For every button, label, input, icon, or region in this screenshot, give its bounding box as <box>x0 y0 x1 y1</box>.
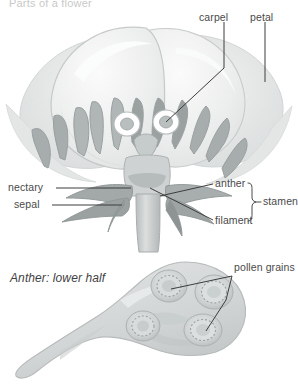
label-anther: anther <box>215 178 245 189</box>
label-petal: petal <box>250 12 273 23</box>
label-nectary: nectary <box>8 182 43 193</box>
figure-canvas: Parts of a flower carpel petal nectary s… <box>0 0 298 391</box>
botanical-illustration <box>0 0 298 391</box>
figure-title: Parts of a flower <box>9 0 92 9</box>
label-anther-lower-half: Anther: lower half <box>10 272 105 284</box>
label-carpel: carpel <box>199 12 228 23</box>
label-pollen-grains: pollen grains <box>234 262 295 273</box>
carpel-left-ovule <box>121 118 134 130</box>
pollen-sac-bottom-left <box>126 311 160 341</box>
flower-stem <box>136 194 160 252</box>
label-filament: filament <box>215 215 253 226</box>
receptacle-group <box>124 155 170 252</box>
label-stamen: stamen <box>263 196 298 207</box>
pollen-sac-bottom-right <box>184 314 222 346</box>
pollen-sac-top-left <box>151 270 187 302</box>
label-sepal: sepal <box>14 199 40 210</box>
